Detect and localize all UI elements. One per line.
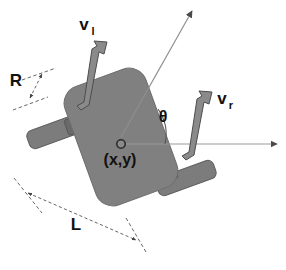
center-position-label: (x,y) bbox=[104, 151, 137, 168]
left-velocity-subscript: l bbox=[91, 25, 94, 37]
right-velocity-arrow bbox=[182, 91, 212, 160]
diagram-canvas: R L θ bbox=[0, 0, 286, 270]
heading-angle-label: θ bbox=[159, 108, 168, 125]
radius-measure-line bbox=[30, 74, 42, 98]
wheel-radius-dimension: R bbox=[10, 68, 56, 110]
wheel-radius-label: R bbox=[10, 71, 22, 90]
left-velocity-label: v bbox=[79, 15, 89, 34]
base-extension-line-left bbox=[14, 178, 42, 213]
radius-extension-line-bottom bbox=[13, 97, 48, 110]
left-velocity-label-group: v l bbox=[79, 15, 94, 37]
right-velocity-label: v bbox=[217, 89, 227, 108]
right-velocity-arrow-shape bbox=[182, 91, 212, 160]
right-velocity-subscript: r bbox=[229, 99, 234, 111]
center-point bbox=[117, 140, 125, 148]
right-velocity-label-group: v r bbox=[217, 89, 234, 111]
robot-kinematics-diagram: R L θ bbox=[0, 0, 286, 270]
radius-extension-line-top bbox=[22, 68, 56, 80]
wheel-base-label: L bbox=[71, 215, 81, 234]
base-extension-line-right bbox=[126, 218, 146, 252]
